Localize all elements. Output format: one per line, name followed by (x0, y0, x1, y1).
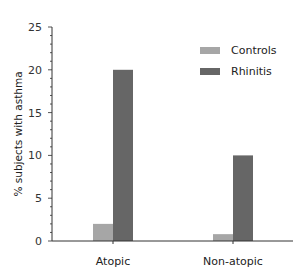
bars (93, 70, 253, 244)
y-tick-label: 5 (35, 192, 42, 205)
bar-rhinitis-atopic (113, 70, 133, 241)
bar-controls-non-atopic (213, 234, 233, 241)
legend-swatch-rhinitis (200, 68, 220, 75)
x-category-label: Non-atopic (203, 255, 263, 268)
y-tick-label: 0 (35, 235, 42, 248)
y-tick-label: 10 (28, 149, 42, 162)
legend-swatch-controls (200, 47, 220, 54)
y-tick-label: 20 (28, 64, 42, 77)
y-axis-ticks: 0510152025 (28, 21, 52, 248)
legend-label-rhinitis: Rhinitis (231, 65, 272, 78)
x-axis-category-labels: AtopicNon-atopic (96, 255, 263, 268)
x-category-label: Atopic (96, 255, 130, 268)
y-tick-label: 15 (28, 107, 42, 120)
y-tick-label: 25 (28, 21, 42, 34)
bar-controls-atopic (93, 224, 113, 241)
legend-label-controls: Controls (231, 44, 277, 57)
y-axis-title: % subjects with asthma (12, 71, 24, 196)
legend: ControlsRhinitis (200, 44, 277, 78)
bar-chart: 0510152025 AtopicNon-atopic % subjects w… (0, 0, 305, 279)
bar-rhinitis-non-atopic (233, 155, 253, 241)
